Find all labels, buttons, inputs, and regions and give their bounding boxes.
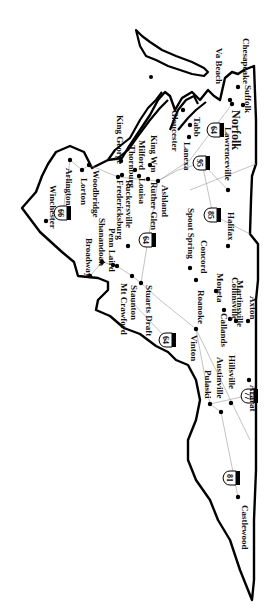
city-label: Moneta bbox=[215, 273, 225, 303]
city-dot-icon bbox=[181, 108, 185, 112]
highway-number: 81 bbox=[225, 474, 234, 482]
city-dot-icon bbox=[247, 378, 251, 382]
city-dot-icon bbox=[226, 188, 230, 192]
city-label: Ashland bbox=[160, 185, 170, 217]
city-king-george: King George bbox=[115, 115, 125, 164]
city-dot-icon bbox=[68, 158, 72, 162]
city-dot-icon bbox=[228, 98, 232, 102]
city-callands: Callands bbox=[219, 308, 229, 348]
city-label: Hillsville bbox=[227, 355, 237, 389]
city-label: Woodbridge bbox=[91, 170, 101, 218]
city-label: Ararat bbox=[248, 385, 258, 412]
city-label: Gloucester bbox=[170, 110, 180, 151]
city-label: Ruckersville bbox=[124, 180, 134, 228]
highway-number: 95 bbox=[195, 159, 204, 167]
highway-number: 64 bbox=[141, 236, 150, 244]
city-staunton: Staunton bbox=[129, 274, 139, 320]
city-label: Louisa bbox=[137, 178, 147, 205]
city-label: Winchester bbox=[48, 185, 58, 229]
city-arlington: Arlington bbox=[64, 158, 74, 206]
city-shanandoah: Shanandoah bbox=[97, 218, 107, 266]
city-label: Mt Crawford bbox=[119, 283, 129, 335]
city-martinsville: Martinsville bbox=[234, 280, 245, 327]
city-label: Axton bbox=[248, 296, 258, 320]
city-label: Suffolk bbox=[243, 85, 253, 113]
highway-number: 64 bbox=[161, 336, 170, 344]
city-pulaski: Pulaski bbox=[203, 370, 213, 406]
city-dot-icon bbox=[44, 219, 48, 223]
city-dot-icon bbox=[80, 168, 84, 172]
city-dot-icon bbox=[115, 264, 119, 268]
city-label: Chesapeake bbox=[241, 38, 251, 84]
city-king-william: King Wm bbox=[148, 135, 159, 173]
highway-shield-icon: 81 bbox=[223, 471, 240, 485]
city-louisa: Louisa bbox=[137, 174, 147, 205]
city-dot-icon bbox=[87, 163, 91, 167]
city-label: Pulaski bbox=[203, 370, 213, 399]
city-dot-icon bbox=[146, 177, 150, 181]
city-label: Concord bbox=[199, 240, 209, 274]
city-dot-icon bbox=[226, 244, 230, 248]
city-dot-icon bbox=[139, 281, 143, 285]
city-dot-icon bbox=[126, 244, 130, 248]
city-label: Callands bbox=[219, 313, 229, 348]
city-dot-icon bbox=[208, 402, 212, 406]
city-dot-icon bbox=[188, 266, 192, 270]
city-broadway: Broadway bbox=[84, 238, 94, 278]
city-dot-icon bbox=[229, 401, 233, 405]
city-vinton: Vinton bbox=[189, 335, 199, 361]
city-label: Castlewood bbox=[240, 505, 250, 550]
highway-shield-icon: 64 bbox=[139, 233, 156, 247]
city-dot-icon bbox=[230, 102, 234, 106]
city-label: Vinton bbox=[189, 335, 199, 361]
city-label: Arlington bbox=[64, 168, 74, 206]
city-hillsville: Hillsville bbox=[227, 355, 237, 405]
city-mt-crawford: Mt Crawford bbox=[115, 264, 129, 335]
city-label: Lanexa bbox=[182, 142, 192, 171]
city-dot-icon bbox=[188, 123, 192, 127]
city-label: King George bbox=[115, 115, 125, 164]
city-label: Austinville bbox=[215, 357, 225, 399]
city-dot-icon bbox=[194, 278, 198, 282]
city-label: Roanoke bbox=[196, 290, 206, 324]
city-dot-icon bbox=[156, 179, 160, 183]
city-austinville: Austinville bbox=[215, 357, 225, 414]
island-dot bbox=[149, 75, 153, 79]
city-dot-icon bbox=[187, 135, 191, 139]
city-suffolk: Suffolk bbox=[241, 85, 253, 113]
highway-number: 64 bbox=[209, 126, 218, 134]
city-dot-icon bbox=[116, 175, 120, 179]
city-dot-icon bbox=[120, 173, 124, 177]
city-dot-icon bbox=[219, 410, 223, 414]
highway-shield-icon: 85 bbox=[204, 208, 221, 222]
city-label: Lorton bbox=[79, 178, 89, 205]
virginia-map: 6664646495857781 WinchesterArlingtonLort… bbox=[0, 0, 278, 610]
city-dot-icon bbox=[194, 327, 198, 331]
city-label: Ruther Glen bbox=[149, 182, 159, 230]
city-lanexa: Lanexa bbox=[182, 135, 192, 171]
city-chesapeake: Chesapeake bbox=[236, 38, 251, 89]
city-dot-icon bbox=[236, 495, 240, 499]
city-axton: Axton bbox=[246, 296, 258, 323]
city-moneta: Moneta bbox=[214, 273, 225, 303]
city-dot-icon bbox=[133, 168, 137, 172]
city-label: Martinsville bbox=[235, 280, 245, 327]
city-label: Lawrenceville bbox=[223, 127, 233, 181]
city-winchester: Winchester bbox=[44, 185, 58, 229]
eastern-shore bbox=[136, 30, 208, 76]
city-label: Shanandoah bbox=[97, 218, 107, 266]
city-stuarts-draft: Stuarts Draft bbox=[139, 281, 154, 336]
city-dot-icon bbox=[236, 85, 240, 89]
city-tabb: Tabb bbox=[188, 117, 202, 137]
city-label: Va Beach bbox=[214, 48, 224, 84]
city-label: Halifax bbox=[226, 212, 236, 241]
highway-number: 85 bbox=[206, 211, 215, 219]
city-lorton: Lorton bbox=[79, 168, 89, 205]
city-castlewood: Castlewood bbox=[236, 495, 250, 550]
city-label: Milford bbox=[137, 140, 147, 170]
city-label: Tabb bbox=[192, 117, 202, 137]
city-dot-icon bbox=[130, 274, 134, 278]
city-label: Stuarts Draft bbox=[144, 285, 154, 336]
city-spout-spring: Spout Spring bbox=[186, 208, 196, 270]
highway-shield-icon: 64 bbox=[159, 333, 176, 347]
